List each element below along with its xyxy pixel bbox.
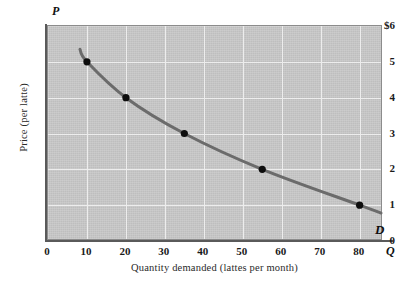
plot-area: D — [47, 25, 382, 240]
x-tick-label: 30 — [149, 245, 179, 257]
y-tick-label: 5 — [356, 56, 400, 67]
demand-curve-svg — [48, 26, 383, 241]
data-point — [181, 130, 188, 137]
y-axis-title: Price (per latte) — [18, 43, 29, 193]
x-axis-line — [45, 240, 393, 242]
p-axis-symbol: P — [52, 4, 59, 19]
x-tick-label: 40 — [188, 245, 218, 257]
data-point — [259, 166, 266, 173]
x-axis-title: Quantity demanded (lattes per month) — [47, 262, 382, 273]
y-tick-label: 4 — [356, 92, 400, 103]
x-tick-label: 80 — [344, 245, 374, 257]
x-tick-label: 0 — [32, 245, 62, 257]
data-point — [122, 94, 129, 101]
data-point — [83, 58, 90, 65]
x-tick-label: 20 — [110, 245, 140, 257]
x-tick-label: 50 — [227, 245, 257, 257]
y-axis-line — [45, 24, 47, 242]
y-tick-label: 2 — [356, 163, 400, 174]
y-tick-label: 3 — [356, 128, 400, 139]
x-tick-label: 10 — [71, 245, 101, 257]
demand-curve-chart: D 012345$6 01020304050607080 Price (per … — [0, 0, 400, 281]
x-tick-label: 60 — [266, 245, 296, 257]
demand-curve-line — [80, 49, 381, 213]
x-tick-label: 70 — [305, 245, 335, 257]
q-axis-symbol: Q — [386, 244, 395, 259]
y-tick-label: $6 — [356, 20, 400, 31]
y-tick-label: 1 — [356, 199, 400, 210]
data-points-group — [83, 58, 363, 209]
